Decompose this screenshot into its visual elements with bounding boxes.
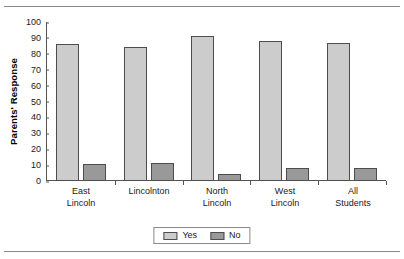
bar-yes[interactable] (191, 36, 214, 181)
y-axis-tick-label: 40 (4, 113, 46, 122)
bar-no[interactable] (218, 174, 241, 181)
bar-group-bars (250, 22, 318, 181)
x-axis-tick-mark (386, 181, 387, 185)
x-axis-label-line: North (183, 186, 251, 198)
y-axis-tick-mark (46, 181, 49, 182)
bar-group (47, 22, 115, 181)
y-axis-tick-label: 10 (4, 161, 46, 170)
bar-group (115, 22, 183, 181)
x-axis-tick-mark (250, 181, 251, 185)
y-axis-tick-label: 20 (4, 145, 46, 154)
bar-group (250, 22, 318, 181)
bar-group (183, 22, 251, 181)
bar-yes[interactable] (259, 41, 282, 181)
legend-item-no[interactable]: No (210, 231, 241, 240)
bar-group-bars (318, 22, 386, 181)
x-axis-label-line: All (319, 186, 387, 198)
y-axis-tick-label: 50 (4, 97, 46, 106)
x-axis-labels: EastLincolnLincolntonNorthLincolnWestLin… (47, 186, 387, 209)
legend-swatch-yes (163, 232, 177, 240)
bar-groups (47, 22, 386, 181)
legend-swatch-no (210, 232, 224, 240)
plot-area: 1009080706050403020100 (46, 22, 386, 181)
x-axis-tick-mark (115, 181, 116, 185)
bar-group-bars (183, 22, 251, 181)
bar-yes[interactable] (327, 43, 350, 181)
bar-yes[interactable] (124, 47, 147, 181)
bar-group-bars (47, 22, 115, 181)
x-axis-tick-mark (183, 181, 184, 185)
bar-no[interactable] (286, 168, 309, 181)
y-axis-tick-label: 90 (4, 33, 46, 42)
chart-figure: Parents' Response 1009080706050403020100… (0, 0, 404, 259)
x-axis-label-line: Students (319, 198, 387, 210)
x-axis-label-line: Lincoln (47, 198, 115, 210)
y-axis-tick-label: 30 (4, 129, 46, 138)
top-divider-rule (4, 6, 400, 7)
bar-no[interactable] (151, 163, 174, 181)
x-axis-label-line: West (251, 186, 319, 198)
y-axis-tick-label: 80 (4, 49, 46, 58)
legend-label: No (229, 231, 241, 240)
y-axis-tick-label: 100 (4, 18, 46, 27)
x-axis-label: Lincolnton (115, 186, 183, 209)
chart-legend: YesNo (153, 227, 250, 244)
y-axis-tick-label: 60 (4, 81, 46, 90)
bar-group-bars (115, 22, 183, 181)
x-axis-label-line: Lincoln (251, 198, 319, 210)
bar-group (318, 22, 386, 181)
x-axis-label: NorthLincoln (183, 186, 251, 209)
x-axis-label-line: Lincoln (183, 198, 251, 210)
x-axis-label: EastLincoln (47, 186, 115, 209)
x-axis-tick-mark (318, 181, 319, 185)
bar-no[interactable] (354, 168, 377, 182)
legend-label: Yes (182, 231, 197, 240)
bar-no[interactable] (83, 164, 106, 181)
y-axis-tick-label: 70 (4, 65, 46, 74)
bar-yes[interactable] (56, 44, 79, 181)
x-axis-label-line: Lincolnton (115, 186, 183, 198)
bottom-divider-rule (4, 251, 400, 252)
legend-item-yes[interactable]: Yes (163, 231, 197, 240)
x-axis-label: WestLincoln (251, 186, 319, 209)
x-axis-label: AllStudents (319, 186, 387, 209)
y-axis-tick-label: 0 (4, 177, 46, 186)
x-axis-label-line: East (47, 186, 115, 198)
